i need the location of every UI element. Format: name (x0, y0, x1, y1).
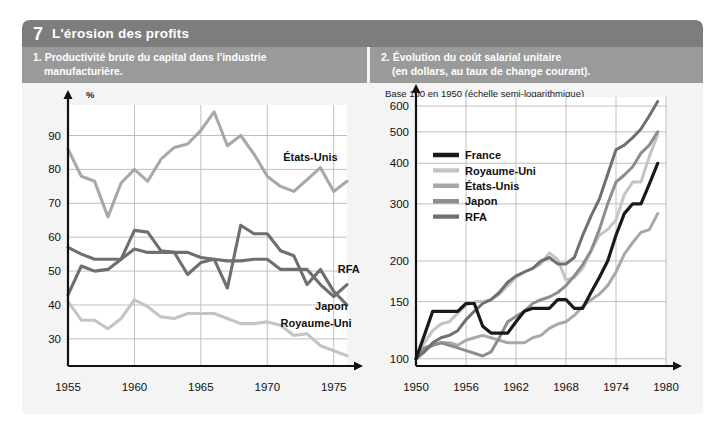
right-ytick-label: 150 (390, 296, 409, 308)
legend-label: États-Unis (465, 180, 519, 192)
left-ytick-label: 70 (48, 197, 61, 209)
chart-card-cout-salarial: Base 100 en 1950 (échelle semi-logarithm… (373, 83, 703, 414)
right-ytick-label: 400 (390, 157, 409, 169)
left-ytick-label: 60 (48, 231, 61, 243)
legend-label: RFA (465, 211, 487, 223)
subtitle-chart-2-line2: (en dollars, au taux de change courant). (381, 65, 693, 79)
left-xtick-label: 1970 (254, 381, 280, 393)
subtitle-bar: 1. Productivité brute du capital dans l'… (22, 47, 703, 83)
right-xtick-label: 1980 (653, 381, 679, 393)
right-ytick-label: 300 (390, 198, 409, 210)
right-ytick-label: 200 (390, 255, 409, 267)
screenshot-root: 7 L'érosion des profits 1. Productivité … (0, 0, 724, 434)
chart-card-productivite: % 3040506070809019551960196519701975État… (22, 83, 370, 414)
subtitle-chart-1-line2: manufacturière. (33, 65, 357, 79)
left-chart-svg: 3040506070809019551960196519701975États-… (22, 83, 370, 414)
left-xtick-label: 1965 (188, 381, 214, 393)
right-chart-svg: 1001502003004005006001950195619621968197… (373, 83, 703, 414)
left-xtick-label: 1975 (321, 381, 347, 393)
subtitle-chart-1-line1: 1. Productivité brute du capital dans l'… (33, 51, 267, 63)
right-xtick-label: 1956 (453, 381, 479, 393)
legend-label: France (465, 149, 501, 161)
figure-title: L'érosion des profits (52, 26, 189, 41)
left-ytick-label: 50 (48, 265, 61, 277)
figure-number: 7 (33, 25, 43, 43)
left-ytick-label: 80 (48, 163, 61, 175)
right-xtick-label: 1962 (503, 381, 529, 393)
left-series-annotation: Royaume-Uni (281, 317, 352, 329)
left-series-annotation: Japon (315, 300, 348, 312)
right-ytick-label: 600 (390, 100, 409, 112)
left-xtick-label: 1960 (122, 381, 148, 393)
left-series-annotation: RFA (338, 263, 360, 275)
subtitle-chart-1: 1. Productivité brute du capital dans l'… (22, 47, 370, 83)
right-xtick-label: 1950 (403, 381, 429, 393)
right-xtick-label: 1968 (553, 381, 579, 393)
figure-panel: 7 L'érosion des profits 1. Productivité … (22, 20, 703, 414)
right-ytick-label: 100 (390, 353, 409, 365)
right-xtick-label: 1974 (603, 381, 629, 393)
legend-label: Japon (465, 195, 498, 207)
left-series-annotation: États-Unis (283, 151, 337, 163)
left-ytick-label: 30 (48, 333, 61, 345)
subtitle-chart-2: 2. Évolution du coût salarial unitaire (… (370, 47, 703, 83)
legend-label: Royaume-Uni (465, 165, 536, 177)
right-ytick-label: 500 (390, 126, 409, 138)
subtitle-chart-2-line1: 2. Évolution du coût salarial unitaire (381, 51, 561, 63)
left-xtick-label: 1955 (55, 381, 81, 393)
left-ytick-label: 90 (48, 130, 61, 142)
figure-title-bar: 7 L'érosion des profits (22, 20, 703, 47)
left-ytick-label: 40 (48, 299, 61, 311)
